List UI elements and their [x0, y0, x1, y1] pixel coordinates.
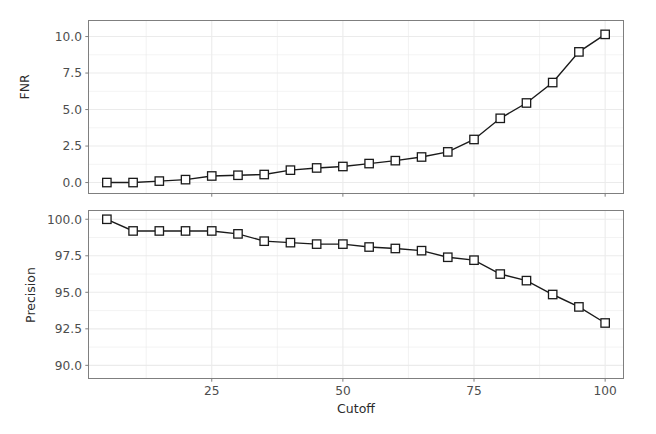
- data-point-marker: [496, 270, 504, 278]
- data-point-marker: [155, 177, 163, 185]
- data-point-marker: [601, 30, 609, 38]
- y-tick-label: 100.0: [47, 213, 82, 227]
- data-point-marker: [522, 276, 530, 284]
- data-point-marker: [260, 170, 268, 178]
- data-point-marker: [365, 243, 373, 251]
- x-tick-label: 25: [204, 384, 220, 398]
- data-point-marker: [103, 215, 111, 223]
- data-point-marker: [286, 166, 294, 174]
- data-point-marker: [496, 114, 504, 122]
- data-point-marker: [417, 246, 425, 254]
- data-point-marker: [470, 135, 478, 143]
- data-point-marker: [575, 303, 583, 311]
- data-point-marker: [260, 237, 268, 245]
- x-tick-label: 75: [466, 384, 482, 398]
- y-tick-label: 92.5: [55, 322, 82, 336]
- data-point-marker: [129, 178, 137, 186]
- data-point-marker: [417, 153, 425, 161]
- y-tick-label: 7.5: [63, 66, 82, 80]
- data-point-marker: [234, 230, 242, 238]
- data-point-marker: [286, 238, 294, 246]
- precision-panel: 90.092.595.097.5100.0255075100: [47, 211, 623, 399]
- plot-area: 0.02.55.07.510.090.092.595.097.5100.0255…: [0, 0, 656, 434]
- data-point-marker: [548, 78, 556, 86]
- y-tick-label: 0.0: [63, 176, 82, 190]
- y-tick-label: 5.0: [63, 103, 82, 117]
- y-tick-label: 90.0: [55, 359, 82, 373]
- data-point-marker: [103, 178, 111, 186]
- x-tick-label: 100: [594, 384, 617, 398]
- data-point-marker: [312, 240, 320, 248]
- data-point-marker: [522, 99, 530, 107]
- data-point-marker: [208, 227, 216, 235]
- data-point-marker: [444, 148, 452, 156]
- fnr-panel: 0.02.55.07.510.0: [55, 21, 624, 197]
- data-point-marker: [601, 319, 609, 327]
- figure-container: FNR Precision Cutoff 0.02.55.07.510.090.…: [0, 0, 656, 434]
- x-tick-label: 50: [335, 384, 351, 398]
- data-point-marker: [234, 171, 242, 179]
- data-point-marker: [391, 244, 399, 252]
- data-point-marker: [312, 164, 320, 172]
- y-tick-label: 10.0: [55, 30, 82, 44]
- y-tick-label: 97.5: [55, 249, 82, 263]
- data-point-marker: [391, 156, 399, 164]
- data-point-marker: [181, 227, 189, 235]
- y-tick-label: 95.0: [55, 286, 82, 300]
- data-point-marker: [181, 175, 189, 183]
- data-point-marker: [444, 253, 452, 261]
- data-point-marker: [548, 290, 556, 298]
- y-tick-label: 2.5: [63, 139, 82, 153]
- data-point-marker: [365, 159, 373, 167]
- data-point-marker: [339, 240, 347, 248]
- data-point-marker: [339, 162, 347, 170]
- data-point-marker: [129, 227, 137, 235]
- data-point-marker: [575, 48, 583, 56]
- data-point-marker: [155, 227, 163, 235]
- data-point-marker: [470, 256, 478, 264]
- data-point-marker: [208, 172, 216, 180]
